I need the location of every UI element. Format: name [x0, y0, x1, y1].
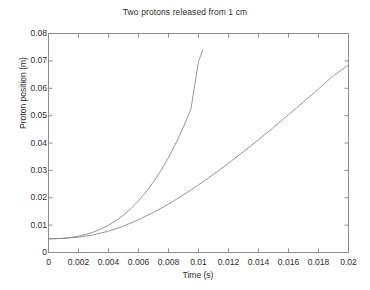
plot-frame [49, 34, 349, 253]
y-tick-label: 0.01 [7, 220, 47, 230]
data-series [49, 49, 349, 238]
y-tick-label: 0.05 [7, 110, 47, 120]
series-line-1 [49, 65, 349, 239]
y-tick-label: 0 [7, 247, 47, 257]
y-tick-label: 0.02 [7, 192, 47, 202]
y-tick-label: 0.08 [7, 28, 47, 38]
chart-figure: Two protons released from 1 cm Proton po… [0, 0, 370, 290]
y-tick-label: 0.04 [7, 138, 47, 148]
x-tick-label: 0.02 [326, 257, 370, 267]
y-tick-label: 0.03 [7, 165, 47, 175]
plot-area [0, 0, 370, 290]
series-line-0 [49, 49, 204, 238]
y-tick-label: 0.06 [7, 83, 47, 93]
y-tick-label: 0.07 [7, 55, 47, 65]
axis-ticks [49, 34, 349, 253]
